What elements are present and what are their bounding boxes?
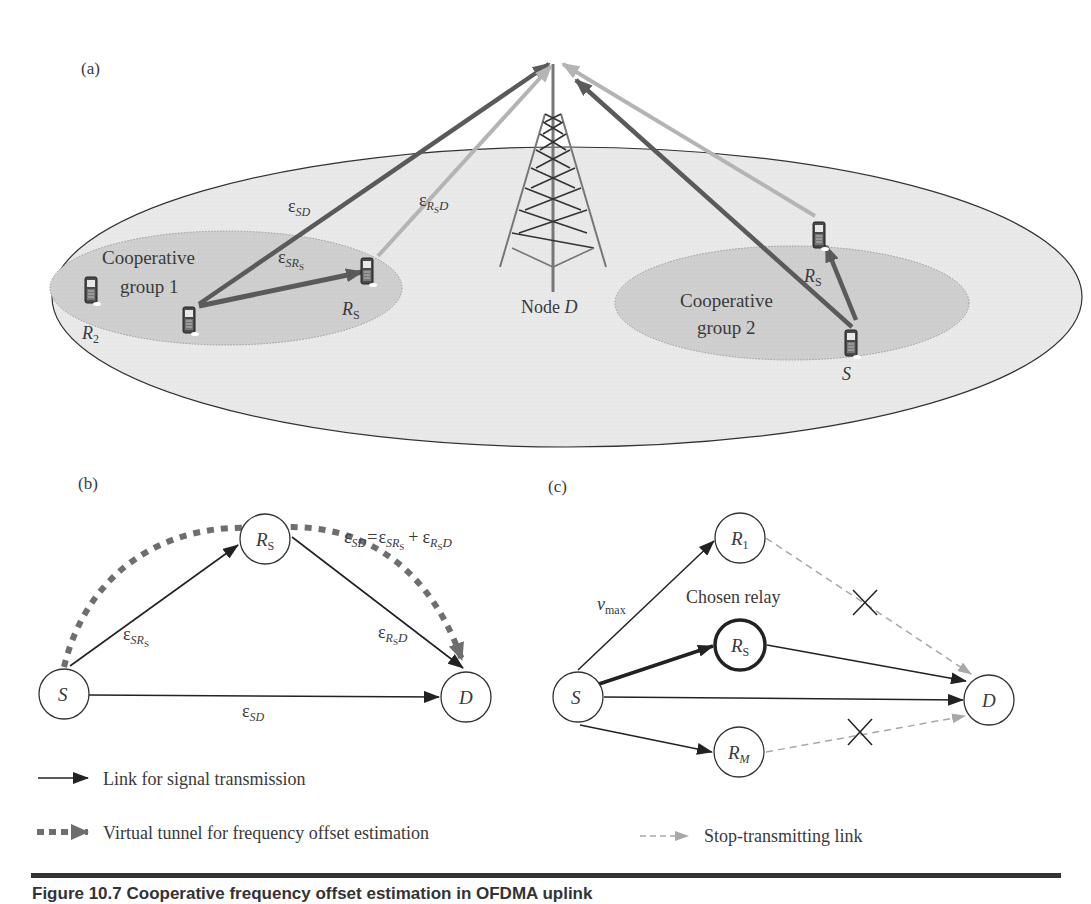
link-rs-to-d-c: [767, 645, 966, 681]
group-2-label-line1: Cooperative: [680, 290, 773, 311]
legend-stop-link-text: Stop-transmitting link: [704, 826, 863, 846]
panel-a: (a) Node D Cooperative group 1 Cooper: [50, 59, 1082, 447]
equation-eps-sd: εSD=εSRS+εRSD: [344, 527, 452, 552]
blocked-x-icon: [853, 590, 877, 615]
label-chosen-relay: Chosen relay: [686, 587, 780, 607]
link-s-to-rm-c: [580, 725, 712, 752]
figure-caption: Figure 10.7 Cooperative frequency offset…: [32, 884, 592, 904]
blocked-x-icon: [848, 719, 872, 745]
label-eps-rsd-b: εRSD: [378, 622, 408, 647]
panel-a-label: (a): [81, 59, 100, 78]
legend-solid-link-text: Link for signal transmission: [103, 769, 305, 789]
caption-rule: [31, 873, 1061, 878]
group-2-label-line2: group 2: [697, 317, 756, 338]
link-s-to-rs-c: [599, 646, 713, 684]
label-eps-srs-b: εSRS: [123, 624, 149, 649]
panel-b-label: (b): [78, 474, 98, 493]
panel-c: (c) S R1 RS RM D vmax Chosen relay: [548, 477, 1014, 846]
group-1-label-line2: group 1: [120, 276, 179, 297]
node-s-b-label: S: [58, 684, 68, 705]
label-eps-sd-b: εSD: [242, 701, 265, 724]
link-s-to-d-c: [604, 697, 963, 700]
panel-b: (b) S RS D εSD=εSRS+εRSD εSRS εRSD εSD L…: [37, 474, 491, 843]
figure-canvas: (a) Node D Cooperative group 1 Cooper: [0, 0, 1091, 904]
link-s-to-rs-b: [70, 545, 238, 666]
node-s-c-label: S: [571, 687, 581, 708]
stop-link-rm-to-d: [766, 716, 965, 752]
node-d-c-label: D: [981, 690, 996, 711]
node-d-b-label: D: [458, 687, 473, 708]
label-vmax: vmax: [597, 594, 626, 617]
cooperative-group-2-area: [615, 246, 969, 360]
group-1-label-line1: Cooperative: [102, 247, 195, 268]
label-s-right: S: [842, 364, 851, 384]
legend-virtual-tunnel-text: Virtual tunnel for frequency offset esti…: [103, 823, 429, 843]
link-s-to-d-b: [89, 695, 439, 697]
node-d-label: Node D: [521, 297, 578, 317]
panel-c-label: (c): [548, 477, 567, 496]
